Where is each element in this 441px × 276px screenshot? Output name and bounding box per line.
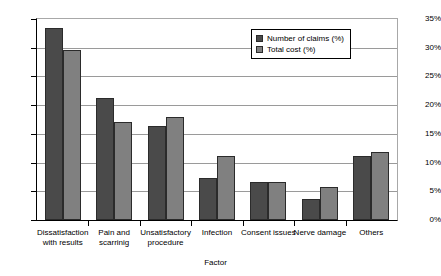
x-axis-category-label-line: procedure [134,238,197,248]
y-axis-tick-label: 20% [409,101,441,109]
legend-swatch-icon-series-0 [256,35,263,42]
bar [96,98,114,220]
bar [302,199,320,220]
legend-item-number-of-claims: Number of claims (%) [256,33,344,44]
y-axis-tick-label: 15% [409,130,441,138]
bar [114,122,132,220]
x-axis-category-label-line: Others [340,228,403,238]
legend-label-series-0: Number of claims (%) [267,34,344,43]
bar [148,126,166,220]
bar [268,182,286,220]
y-axis-tick-label: 25% [409,72,441,80]
bar-chart: 0%5%10%15%20%25%30%35% Dissatisfactionwi… [0,0,441,276]
bar-group [199,19,235,220]
bar-group [353,19,389,220]
y-axis-tick-label: 35% [409,15,441,23]
y-axis-tick-label: 10% [409,159,441,167]
chart-legend: Number of claims (%) Total cost (%) [251,29,351,59]
x-axis-title: Factor [0,258,441,267]
x-axis-tick-mark [191,221,192,226]
bar [45,28,63,220]
x-axis-tick-mark [140,221,141,226]
bar-group [96,19,132,220]
bar-group [148,19,184,220]
bar [166,117,184,220]
x-axis-tick-mark [346,221,347,226]
bar-group [45,19,81,220]
x-axis-category-label: Others [340,228,403,238]
bar [250,182,268,220]
x-axis-tick-mark [243,221,244,226]
y-axis-tick-label: 0% [409,216,441,224]
bar [199,178,217,220]
bar [320,187,338,220]
bar [371,152,389,220]
x-axis-tick-mark [294,221,295,226]
bar [217,156,235,220]
bar [353,156,371,220]
legend-label-series-1: Total cost (%) [267,45,315,54]
x-axis-tick-mark [88,221,89,226]
y-axis-tick-label: 5% [409,187,441,195]
legend-swatch-icon-series-1 [256,46,263,53]
bar [63,50,81,220]
legend-item-total-cost: Total cost (%) [256,44,344,55]
x-axis-title-label: Factor [204,258,227,267]
y-axis-tick-label: 30% [409,44,441,52]
